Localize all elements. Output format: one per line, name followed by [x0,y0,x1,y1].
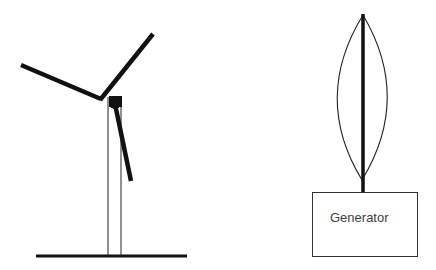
curved-blade-left [337,15,363,180]
curved-blade-right [362,15,387,180]
hub [109,97,121,109]
vertical-axis-wind-turbine: Generator [313,14,418,257]
blade-left [21,65,101,99]
blade-lower [115,104,131,181]
generator-label: Generator [330,210,389,225]
horizontal-axis-wind-turbine [21,34,187,256]
blade-upper-right [100,34,153,100]
diagram-canvas: Generator [0,0,436,270]
